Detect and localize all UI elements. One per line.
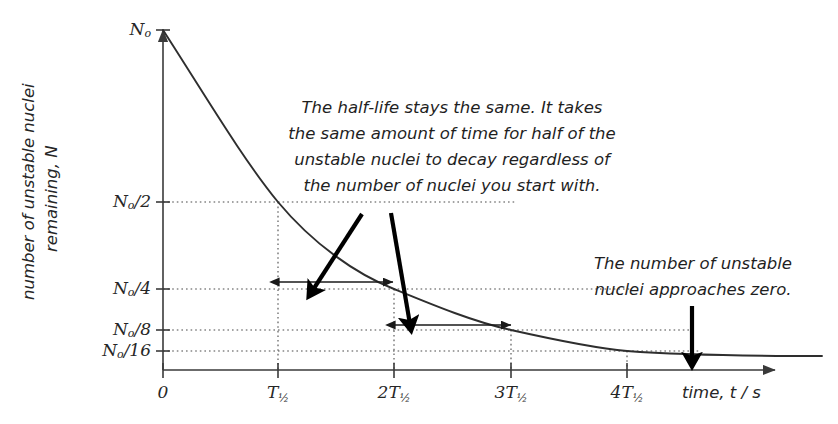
y-axis-title: number of unstable nuclei remaining, N [19,83,61,300]
approaches-zero-annotation-line-2: nuclei approaches zero. [594,280,791,299]
ytick-label-n0: No [129,19,152,41]
x-tick-labels: 0 T½ 2T½ 3T½ 4T½ [158,382,644,405]
xtick-label-t-half: T½ [267,382,289,405]
half-life-annotation: The half-life stays the same. It takes t… [288,98,615,195]
half-life-annotation-line-2: the same amount of time for half of the [288,124,615,143]
xtick-label-3t-half: 3T½ [495,382,528,405]
horizontal-guides [163,202,700,351]
approaches-zero-annotation: The number of unstable nuclei approaches… [594,254,792,299]
xtick-label-2t-half: 2T½ [377,382,411,405]
ytick-label-n0-8: No/8 [112,319,151,341]
xtick-label-4t-half: 4T½ [610,382,644,405]
ytick-label-n0-4: No/4 [112,278,151,300]
xtick-label-zero: 0 [158,382,169,402]
y-axis-title-line1: number of unstable nuclei [19,83,38,300]
half-life-annotation-line-3: unstable nuclei to decay regardless of [294,150,612,169]
ytick-label-n0-2: No/2 [112,191,151,213]
half-life-annotation-line-1: The half-life stays the same. It takes [302,98,603,117]
decay-curve-figure: No No/2 No/4 No/8 No/16 0 T½ 2T½ [0,0,838,424]
decay-diagram-svg: No No/2 No/4 No/8 No/16 0 T½ 2T½ [0,0,838,424]
y-axis-title-line2: remaining, N [42,145,61,252]
x-axis-title: time, t / s [682,383,761,402]
approaches-zero-annotation-line-1: The number of unstable [594,254,792,273]
pointer-arrow-to-first-bar [309,214,362,296]
y-tick-labels: No No/2 No/4 No/8 No/16 [101,19,151,362]
ytick-label-n0-16: No/16 [101,340,151,362]
vertical-guides [278,202,627,370]
half-life-annotation-line-4: the number of nuclei you start with. [303,176,600,195]
